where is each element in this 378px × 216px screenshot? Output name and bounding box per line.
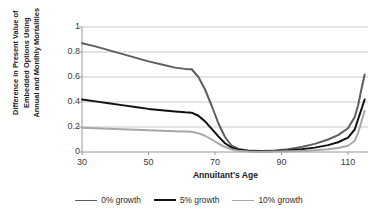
legend-item: 10% growth [232, 195, 302, 205]
legend-label: 0% growth [101, 195, 141, 205]
legend-label: 5% growth [180, 195, 220, 205]
chart-legend: 0% growth5% growth10% growth [0, 195, 378, 205]
x-axis-title: Annuitant's Age [82, 170, 369, 180]
legend-swatch [232, 200, 254, 201]
series-line-5-growth [82, 100, 365, 152]
legend-item: 0% growth [75, 195, 141, 205]
legend-swatch [154, 199, 176, 201]
legend-swatch [75, 200, 97, 201]
legend-label: 10% growth [258, 195, 302, 205]
x-tick-label: 90 [267, 157, 297, 167]
x-tick-label: 50 [134, 157, 164, 167]
chart-container: Difference in Present Value of Embedded … [0, 0, 378, 216]
series-line-0-growth [82, 43, 365, 151]
legend-item: 5% growth [154, 195, 220, 205]
x-tick-label: 30 [67, 157, 97, 167]
x-tick-label: 70 [200, 157, 230, 167]
plot-area [0, 0, 378, 216]
x-tick-label: 110 [333, 157, 363, 167]
